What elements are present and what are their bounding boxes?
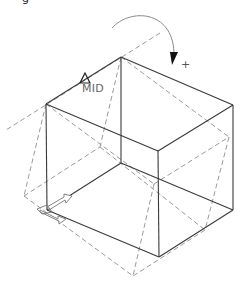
coordinate-axis-icon	[37, 194, 72, 224]
snap-label: MID	[82, 82, 104, 95]
solid-box	[46, 57, 233, 257]
rotation-sign: +	[181, 58, 190, 71]
diagram-canvas	[0, 0, 246, 289]
